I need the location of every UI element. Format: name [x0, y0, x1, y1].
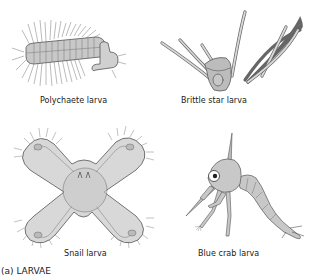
snail-larva-illustration [14, 126, 154, 248]
polychaete-larva-illustration [12, 20, 126, 86]
polychaete-larva-caption: Polychaete larva [40, 96, 107, 105]
brittle-star-larva-illustration [162, 12, 301, 91]
panel-label: (a) LARVAE [1, 266, 51, 276]
larvae-figure: Polychaete larva Brittle star larva Snai… [0, 0, 320, 279]
larvae-illustrations [0, 0, 320, 279]
blue-crab-larva-illustration [186, 133, 304, 239]
blue-crab-larva-caption: Blue crab larva [198, 249, 259, 258]
snail-larva-caption: Snail larva [64, 249, 107, 258]
brittle-star-larva-caption: Brittle star larva [181, 96, 247, 105]
